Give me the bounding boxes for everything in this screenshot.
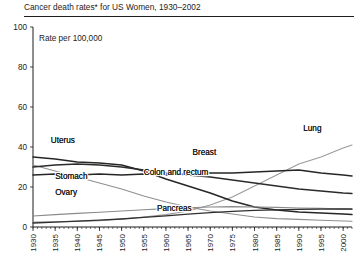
y-tick-label: 100 bbox=[13, 23, 27, 32]
series-line-ovary bbox=[33, 207, 352, 216]
series-label-lung: Lung bbox=[303, 124, 322, 133]
x-tick-label: 1940 bbox=[73, 233, 82, 251]
y-tick-label: 60 bbox=[18, 103, 28, 112]
y-axis-caption: Rate per 100,000 bbox=[39, 34, 103, 43]
x-tick-label: 1930 bbox=[29, 233, 38, 251]
x-tick-label: 1990 bbox=[295, 233, 304, 251]
x-tick-label: 1965 bbox=[184, 233, 193, 251]
series-line-pancreas bbox=[33, 209, 352, 223]
x-tick-label: 1995 bbox=[317, 233, 326, 251]
y-tick-label: 80 bbox=[18, 63, 28, 72]
x-tick-label: 1985 bbox=[273, 233, 282, 251]
y-tick-label: 0 bbox=[22, 223, 27, 232]
x-tick-label: 1980 bbox=[251, 233, 260, 251]
x-tick-label: 1950 bbox=[118, 233, 127, 251]
series-label-breast: Breast bbox=[193, 148, 217, 157]
x-tick-label: 1975 bbox=[228, 233, 237, 251]
x-tick-label: 1945 bbox=[95, 233, 104, 251]
series-label-uterus: Uterus bbox=[51, 136, 75, 145]
x-tick-label: 1955 bbox=[140, 233, 149, 251]
cancer-death-rates-figure: Cancer death rates* for US Women, 1930–2… bbox=[0, 0, 361, 258]
series-label-stomach: Stomach bbox=[55, 172, 88, 181]
series-label-colon-and-rectum: Colon and rectum bbox=[144, 168, 209, 177]
y-tick-label: 20 bbox=[18, 183, 28, 192]
x-tick-label: 1970 bbox=[206, 233, 215, 251]
x-tick-label: 1935 bbox=[51, 233, 60, 251]
series-label-pancreas: Pancreas bbox=[157, 204, 192, 213]
series-line-uterus bbox=[33, 157, 352, 215]
series-label-ovary: Ovary bbox=[55, 188, 78, 197]
x-tick-label: 1960 bbox=[162, 233, 171, 251]
x-tick-label: 2000 bbox=[339, 233, 348, 251]
line-chart-plot: 0204060801001930193519401945195019551960… bbox=[0, 0, 361, 258]
y-tick-label: 40 bbox=[18, 143, 28, 152]
